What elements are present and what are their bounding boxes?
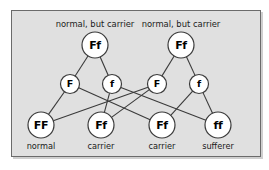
edge-parent-left-to-gamete-f-upper-left [75, 56, 88, 76]
edge-gamete-f-lower-right-to-offspring-ff-sufferer [203, 93, 213, 114]
figure-stage: Ffnormal, but carrierFfnormal, but carri… [0, 0, 269, 170]
edge-parent-right-to-gamete-f-lower-right [186, 57, 195, 76]
gamete-f-upper-right-circle[interactable] [148, 75, 167, 94]
offspring-ff-normal-circle[interactable] [28, 112, 54, 138]
gamete-f-lower-left-circle[interactable] [103, 75, 122, 94]
gamete-f-lower-right-circle[interactable] [190, 75, 209, 94]
offspring-ff-sufferer-circle[interactable] [205, 112, 231, 138]
offspring-fF-carrier2-circle[interactable] [149, 112, 175, 138]
offspring-fF-carrier1-circle[interactable] [88, 112, 114, 138]
parent-right-circle[interactable] [168, 32, 194, 58]
edge-parent-left-to-gamete-f-lower-left [100, 57, 108, 75]
edge-gamete-f-upper-left-to-offspring-ff-normal [49, 92, 65, 115]
edge-gamete-f-lower-right-to-offspring-fF-carrier2 [171, 91, 193, 115]
nodes-layer [28, 32, 231, 138]
edge-parent-right-to-gamete-f-upper-right [162, 56, 174, 76]
parent-left-circle[interactable] [82, 32, 108, 58]
gamete-f-upper-left-circle[interactable] [61, 75, 80, 94]
inheritance-diagram [0, 0, 269, 170]
